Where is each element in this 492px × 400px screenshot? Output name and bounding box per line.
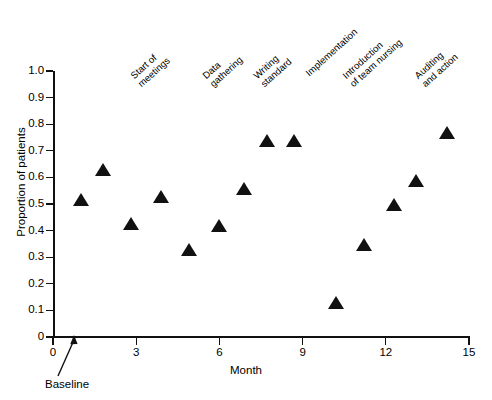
x-tick-label: 6 — [199, 346, 239, 358]
y-tick — [46, 230, 53, 231]
y-tick — [46, 150, 53, 151]
data-point-marker — [73, 193, 89, 206]
x-axis-line — [53, 336, 470, 338]
y-tick — [46, 97, 53, 98]
y-tick-label: 0.3 — [0, 251, 44, 263]
y-tick-label: 0 — [0, 331, 44, 343]
data-point-marker — [181, 243, 197, 256]
y-tick — [46, 203, 53, 204]
x-tick — [468, 338, 469, 345]
baseline-arrow-icon — [54, 334, 94, 378]
x-tick-label: 9 — [283, 346, 323, 358]
data-point-marker — [153, 190, 169, 203]
x-tick — [302, 338, 303, 345]
data-point-marker — [439, 126, 455, 139]
event-label-writing-standard: Writing standard — [252, 48, 294, 89]
y-tick — [46, 283, 53, 284]
data-point-marker — [95, 163, 111, 176]
event-label-start-of-meetings: Start of meetings — [129, 47, 172, 89]
data-point-marker — [386, 198, 402, 211]
data-point-marker — [328, 296, 344, 309]
x-tick-label: 3 — [116, 346, 156, 358]
data-point-marker — [259, 134, 275, 147]
y-tick — [46, 310, 53, 311]
y-tick-label: 1.0 — [0, 65, 44, 77]
event-label-auditing-and-action: Auditing and action — [413, 44, 460, 89]
y-tick — [46, 177, 53, 178]
y-tick — [46, 257, 53, 258]
y-tick-label: 0.1 — [0, 304, 44, 316]
y-tick — [46, 124, 53, 125]
x-tick-label: 12 — [366, 346, 406, 358]
x-tick — [136, 338, 137, 345]
data-point-marker — [123, 217, 139, 230]
data-point-marker — [286, 134, 302, 147]
data-point-marker — [408, 174, 424, 187]
y-tick-label: 0.2 — [0, 278, 44, 290]
event-label-data-gathering: Data gathering — [201, 47, 245, 90]
data-point-marker — [236, 182, 252, 195]
y-tick — [46, 70, 53, 71]
chart-figure: 00.10.20.30.40.50.60.70.80.91.0 03691215… — [0, 0, 492, 400]
y-axis-line — [53, 71, 55, 338]
data-point-marker — [356, 238, 372, 251]
baseline-label: Baseline — [45, 378, 89, 390]
x-tick-label: 15 — [449, 346, 489, 358]
data-point-marker — [211, 219, 227, 232]
y-tick-label: 0.9 — [0, 92, 44, 104]
y-axis-title: Proportion of patients — [15, 117, 27, 247]
x-tick — [385, 338, 386, 345]
x-tick — [219, 338, 220, 345]
